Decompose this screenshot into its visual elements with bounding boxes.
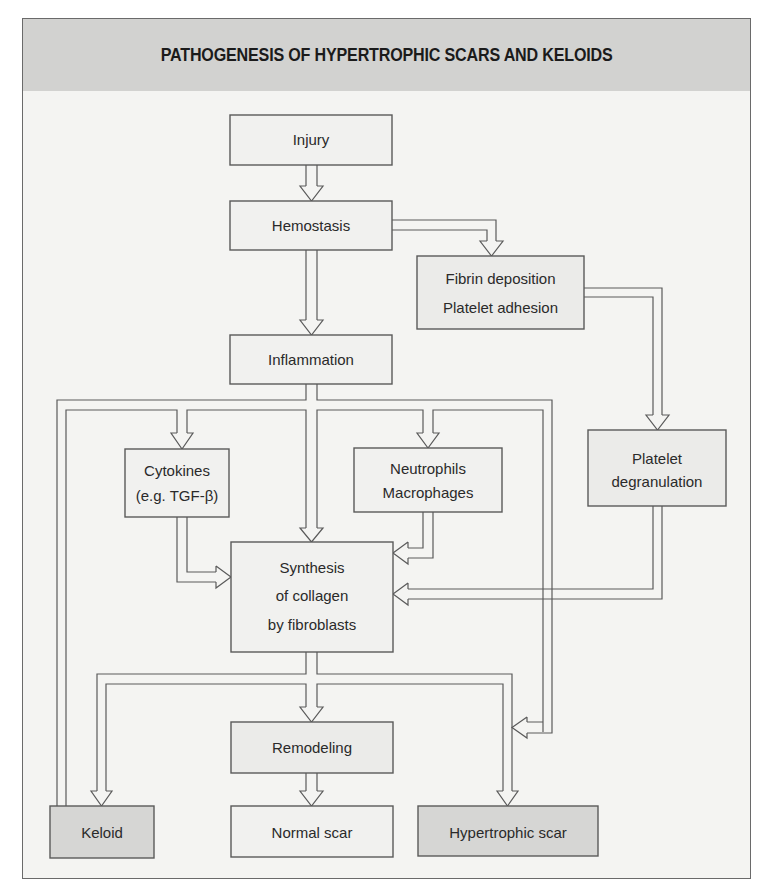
node-remodeling: Remodeling xyxy=(231,722,393,773)
connector-fibrin-platelet xyxy=(584,288,669,430)
node-neutrophils-line2: Macrophages xyxy=(383,484,474,501)
node-cytokines-line1: Cytokines xyxy=(144,462,210,479)
node-platelet-line1: Platelet xyxy=(632,450,683,467)
node-injury: Injury xyxy=(230,115,392,165)
connector-cytokines-synthesis xyxy=(177,517,231,588)
node-synthesis-line2: of collagen xyxy=(276,587,349,604)
node-keloid-label: Keloid xyxy=(81,824,123,841)
connector-inflammation-hypertrophic xyxy=(512,717,552,738)
node-synthesis: Synthesis of collagen by fibroblasts xyxy=(231,542,393,652)
node-normal-scar-label: Normal scar xyxy=(272,824,353,841)
node-hemostasis-label: Hemostasis xyxy=(272,217,350,234)
node-hypertrophic-scar-label: Hypertrophic scar xyxy=(449,824,567,841)
node-normal-scar: Normal scar xyxy=(231,806,393,857)
node-fibrin-line2: Platelet adhesion xyxy=(443,299,558,316)
connector-hemostasis-inflammation xyxy=(300,250,323,335)
node-platelet-line2: degranulation xyxy=(612,473,703,490)
node-neutrophils-line1: Neutrophils xyxy=(390,460,466,477)
node-remodeling-label: Remodeling xyxy=(272,739,352,756)
node-inflammation-label: Inflammation xyxy=(268,351,354,368)
connector-injury-hemostasis xyxy=(300,165,323,201)
connector-neutrophils-synthesis xyxy=(393,512,433,564)
connector-hemostasis-fibrin xyxy=(392,220,503,256)
node-platelet-degranulation: Platelet degranulation xyxy=(588,430,726,506)
node-hypertrophic-scar: Hypertrophic scar xyxy=(418,806,598,856)
node-cytokines-line2: (e.g. TGF-β) xyxy=(136,487,219,504)
flowchart: Injury Hemostasis Fibrin deposition Plat… xyxy=(0,0,760,893)
node-fibrin: Fibrin deposition Platelet adhesion xyxy=(417,256,584,329)
node-injury-label: Injury xyxy=(293,131,330,148)
node-fibrin-line1: Fibrin deposition xyxy=(445,270,555,287)
node-inflammation: Inflammation xyxy=(230,335,392,384)
node-neutrophils: Neutrophils Macrophages xyxy=(354,448,502,512)
node-synthesis-line3: by fibroblasts xyxy=(268,616,356,633)
node-cytokines: Cytokines (e.g. TGF-β) xyxy=(125,449,229,517)
node-synthesis-line1: Synthesis xyxy=(279,559,344,576)
node-keloid: Keloid xyxy=(50,806,154,858)
node-hemostasis: Hemostasis xyxy=(230,201,392,250)
connector-remodeling-normal xyxy=(300,773,323,806)
